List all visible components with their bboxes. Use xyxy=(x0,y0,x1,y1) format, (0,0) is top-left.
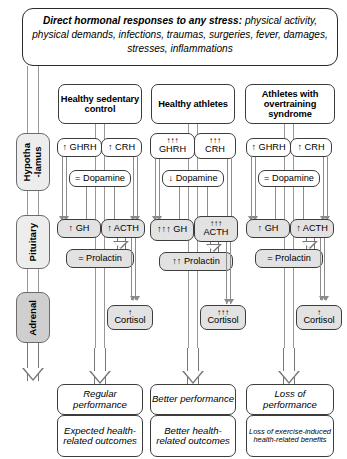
c1-conn-acth-cort-a xyxy=(131,238,132,300)
c2-dopamine-label: ↓ Dopamine xyxy=(168,174,217,184)
c2-outcome2-box: Better health-related outcomes xyxy=(150,415,236,457)
axis-stem-mid2 xyxy=(27,268,39,293)
c1-acth-box: ↑ ACTH xyxy=(101,219,145,238)
c1-conn-ghrh-gh-a xyxy=(62,157,63,219)
c3-crh-label: ↑ CRH xyxy=(297,143,324,153)
stress-banner: Direct hormonal responses to any stress:… xyxy=(22,8,338,66)
column-header-3: Athletes with overtraining syndrome xyxy=(245,84,335,124)
c3-ghrh-box: ↑ GHRH xyxy=(246,138,291,157)
c1-acth-down-arrow xyxy=(113,238,129,249)
column-header-3-label: Athletes with overtraining syndrome xyxy=(246,89,334,119)
c2-cortisol-box: ↑↑↑ Cortisol xyxy=(200,305,246,330)
c2-dopamine-box: ↓ Dopamine xyxy=(162,170,224,187)
gland-pituitary: Pituitary xyxy=(16,215,50,269)
c1-outcome1-box: Regular performance xyxy=(57,384,143,415)
c1-prolactin-label: = Prolactin xyxy=(78,254,122,264)
c2-prolactin-box: ↑↑ Prolactin xyxy=(159,252,233,271)
c2-conn-crh-acth-a xyxy=(227,159,228,219)
c3-gh-box: ↑ GH xyxy=(246,219,290,238)
c1-gh-box: ↑ GH xyxy=(57,219,101,238)
c1-conn-crh-acth-b xyxy=(137,157,138,219)
c3-prolactin-box: = Prolactin xyxy=(255,249,323,268)
c3-conn-acth-cort-a xyxy=(320,238,321,300)
c3-conn-crh-acth-b xyxy=(327,157,328,219)
c2-conn-acth-cort-a xyxy=(226,242,227,304)
c3-dopamine-label: = Dopamine xyxy=(264,174,314,184)
axis-output-arrow xyxy=(22,343,44,381)
c3-acth-label: ↑ ACTH xyxy=(296,224,328,234)
gland-adrenal-label: Adrenal xyxy=(28,300,39,336)
c1-conn-dopa-a xyxy=(86,187,87,219)
c2-crh-box: ↑↑↑ CRH xyxy=(194,133,236,159)
column-header-1-label: Healthy sedentary control xyxy=(59,94,141,114)
axis-stem-top xyxy=(27,66,39,134)
c2-outcome1-box: Better performance xyxy=(150,384,236,415)
c3-conn-ghrh-gh-a xyxy=(251,157,252,219)
c1-gh-label: ↑ GH xyxy=(69,224,90,234)
c2-ghrh-label: GHRH xyxy=(159,145,186,155)
c1-conn-ghrh-gh-b xyxy=(66,157,67,219)
c1-outcome2-box: Expected health-related outcomes xyxy=(57,415,143,457)
c2-cortisol-label: Cortisol xyxy=(207,316,238,326)
c2-prolactin-label: ↑↑ Prolactin xyxy=(172,257,220,267)
c3-conn-crh-acth-a xyxy=(323,157,324,219)
c2-acth-down-arrow xyxy=(206,242,222,252)
c2-outcome1-label: Better performance xyxy=(152,394,234,404)
c2-gh-box: ↑↑↑ GH xyxy=(150,219,194,241)
c3-acth-down-arrow xyxy=(302,238,318,249)
c2-conn-dopa-a xyxy=(179,187,180,219)
c3-outcome2-label: Loss of exercise-induced health-related … xyxy=(247,428,333,444)
c2-ghrh-box: ↑↑↑ GHRH xyxy=(150,133,195,159)
c3-outcome2-box: Loss of exercise-induced health-related … xyxy=(246,415,334,457)
c3-cortisol-box: ↑ Cortisol xyxy=(296,305,342,330)
c3-crh-box: ↑ CRH xyxy=(290,138,332,157)
c2-conn-ghrh-gh-a xyxy=(155,159,156,219)
c2-outcome2-label: Better health-related outcomes xyxy=(151,426,235,447)
c1-conn-crh-acth-a xyxy=(133,157,134,219)
c1-outcome2-label: Expected health-related outcomes xyxy=(58,426,142,447)
gland-hypothalamus-label: Hypotha -lamus xyxy=(22,143,43,181)
c1-prolactin-box: = Prolactin xyxy=(66,249,134,268)
c3-outcome-arrow xyxy=(278,348,300,384)
c1-cortisol-label: Cortisol xyxy=(114,316,145,326)
c2-crh-label: CRH xyxy=(205,145,225,155)
c1-crh-box: ↑ CRH xyxy=(101,138,142,157)
c1-outcome-arrow xyxy=(89,348,111,384)
column-header-2-label: Healthy athletes xyxy=(158,99,228,109)
column-header-1: Healthy sedentary control xyxy=(58,84,142,124)
c3-conn-acth-cort-b xyxy=(324,238,325,300)
c3-conn-dopa-b xyxy=(303,187,304,219)
c2-conn-dopa-b xyxy=(207,187,208,219)
banner-lead: Direct hormonal responses to any stress: xyxy=(43,15,242,26)
c1-spine xyxy=(95,124,105,369)
c2-gh-label: ↑↑↑ GH xyxy=(157,225,187,235)
c3-acth-box: ↑ ACTH xyxy=(290,219,334,238)
c1-dopamine-box: = Dopamine xyxy=(69,170,131,187)
c2-conn-ghrh-gh-b xyxy=(159,159,160,219)
c2-acth-label: ACTH xyxy=(203,228,228,238)
gland-hypothalamus: Hypotha -lamus xyxy=(16,133,50,191)
c3-spine xyxy=(284,124,294,369)
c2-arrowhead-cort-b xyxy=(228,299,234,304)
c1-arrowhead-cort-b xyxy=(134,296,140,301)
c3-prolactin-label: = Prolactin xyxy=(267,254,311,264)
c2-conn-crh-acth-b xyxy=(231,159,232,219)
c3-conn-dopa-a xyxy=(275,187,276,219)
c1-conn-acth-cort-b xyxy=(135,238,136,300)
c3-conn-ghrh-gh-b xyxy=(255,157,256,219)
c2-conn-acth-cort-b xyxy=(230,242,231,304)
gland-adrenal: Adrenal xyxy=(16,292,50,343)
c1-crh-label: ↑ CRH xyxy=(108,143,135,153)
c3-cortisol-label: Cortisol xyxy=(303,316,334,326)
column-header-2: Healthy athletes xyxy=(151,84,235,124)
c3-outcome1-box: Loss of performance xyxy=(246,384,334,415)
c3-gh-label: ↑ GH xyxy=(258,224,279,234)
c1-dopamine-label: = Dopamine xyxy=(75,174,125,184)
gland-pituitary-label: Pituitary xyxy=(28,223,39,261)
c1-cortisol-box: ↑ Cortisol xyxy=(107,305,153,330)
c1-ghrh-label: ↑ GHRH xyxy=(62,143,96,153)
axis-stem-mid1 xyxy=(27,190,39,216)
c2-acth-box: ↑↑↑ ACTH xyxy=(194,216,238,242)
c1-outcome1-label: Regular performance xyxy=(58,389,142,410)
c3-outcome1-label: Loss of performance xyxy=(247,389,333,410)
